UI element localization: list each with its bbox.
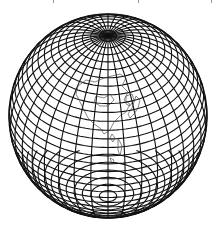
- graticule: [9, 14, 207, 218]
- globe-map: [0, 0, 215, 225]
